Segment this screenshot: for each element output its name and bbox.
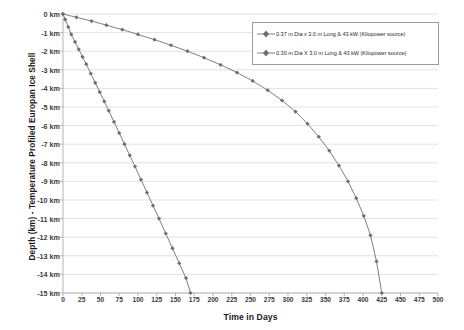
x-tick-label: 350 [320, 296, 331, 303]
x-tick-label: 325 [301, 296, 312, 303]
data-point-marker [170, 246, 174, 250]
data-point-marker [177, 261, 181, 265]
data-point-marker [73, 40, 77, 44]
y-tick-label: -7 km [16, 140, 60, 149]
y-tick-label: -11 km [16, 214, 60, 223]
x-tick-label: 225 [226, 296, 237, 303]
x-tick-label: 100 [132, 296, 143, 303]
y-tick-label: -9 km [16, 177, 60, 186]
y-axis-tick-labels: 0 km-1 km-2 km-3 km-4 km-5 km-6 km-7 km-… [14, 0, 60, 330]
data-point-marker [188, 291, 192, 295]
y-tick-label: -4 km [16, 84, 60, 93]
data-point-marker [235, 70, 239, 74]
data-point-marker [120, 28, 124, 32]
y-tick-label: 0 km [16, 10, 60, 19]
x-tick-label: 250 [245, 296, 256, 303]
legend-item[interactable]: 0.37 m Dia x 3.0 m Long & 43 kW (Kilopow… [256, 27, 434, 41]
data-point-marker [84, 62, 88, 66]
y-tick-label: -14 km [16, 270, 60, 279]
x-tick-label: 300 [282, 296, 293, 303]
data-point-marker [104, 23, 108, 27]
data-point-marker [362, 214, 366, 218]
y-tick-label: -15 km [16, 289, 60, 298]
x-tick-label: 175 [189, 296, 200, 303]
x-tick-label: 200 [207, 296, 218, 303]
data-point-marker [380, 291, 384, 295]
x-tick-label: 375 [339, 296, 350, 303]
data-point-marker [374, 259, 378, 263]
legend-marker-icon [256, 28, 276, 40]
y-tick-label: -10 km [16, 196, 60, 205]
legend-label: 0.37 m Dia x 3.0 m Long & 43 kW (Kilopow… [276, 31, 405, 37]
x-axis-title: Time in Days [63, 312, 438, 322]
data-point-marker [66, 25, 70, 29]
data-point-marker [145, 190, 149, 194]
legend-label: 0.30 m Dia X 3.0 m Long & 43 kW (Kilopow… [276, 50, 406, 56]
chart-legend: 0.37 m Dia x 3.0 m Long & 43 kW (Kilopow… [252, 22, 439, 65]
data-point-marker [218, 63, 222, 67]
data-point-marker [89, 19, 93, 23]
y-tick-label: -3 km [16, 65, 60, 74]
data-point-marker [133, 164, 137, 168]
data-point-marker [202, 56, 206, 60]
data-point-marker [122, 142, 126, 146]
data-point-marker [93, 81, 97, 85]
data-point-marker [112, 120, 116, 124]
data-point-marker [61, 12, 65, 16]
data-point-marker [346, 179, 350, 183]
chart-container: 0 km-1 km-2 km-3 km-4 km-5 km-6 km-7 km-… [0, 0, 464, 330]
x-tick-label: 150 [170, 296, 181, 303]
data-point-marker [185, 49, 189, 53]
x-tick-label: 475 [414, 296, 425, 303]
y-tick-label: -1 km [16, 28, 60, 37]
y-tick-label: -5 km [16, 103, 60, 112]
y-tick-label: -8 km [16, 158, 60, 167]
x-tick-label: 50 [97, 296, 104, 303]
data-point-marker [80, 55, 84, 59]
data-point-marker [63, 17, 67, 21]
x-tick-label: 500 [432, 296, 443, 303]
data-point-marker [169, 43, 173, 47]
data-point-marker [157, 217, 161, 221]
x-tick-label: 400 [357, 296, 368, 303]
data-point-marker [151, 203, 155, 207]
data-point-marker [89, 71, 93, 75]
x-tick-label: 125 [151, 296, 162, 303]
y-tick-label: -6 km [16, 121, 60, 130]
x-tick-label: 0 [61, 296, 65, 303]
x-tick-label: 425 [376, 296, 387, 303]
data-point-marker [128, 153, 132, 157]
data-point-marker [184, 276, 188, 280]
y-axis-title: Depth (km) - Temperature Profiled Europa… [28, 12, 37, 302]
data-point-marker [164, 231, 168, 235]
data-point-marker [98, 90, 102, 94]
data-point-marker [107, 109, 111, 113]
data-point-marker [74, 15, 78, 19]
y-tick-label: -12 km [16, 233, 60, 242]
legend-marker-icon [256, 47, 276, 59]
x-tick-label: 25 [78, 296, 85, 303]
data-point-marker [152, 38, 156, 42]
data-point-marker [117, 131, 121, 135]
data-point-marker [102, 99, 106, 103]
legend-item[interactable]: 0.30 m Dia X 3.0 m Long & 43 kW (Kilopow… [256, 46, 434, 60]
x-tick-label: 75 [116, 296, 123, 303]
y-tick-label: -2 km [16, 47, 60, 56]
x-tick-label: 275 [264, 296, 275, 303]
x-tick-label: 450 [395, 296, 406, 303]
y-tick-label: -13 km [16, 251, 60, 260]
